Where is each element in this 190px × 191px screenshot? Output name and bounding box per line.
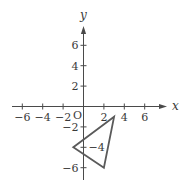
y-tick-label: −2: [62, 121, 78, 134]
x-axis-label: x: [172, 99, 179, 113]
x-tick-label: −6: [14, 111, 30, 124]
x-tick-label: −4: [35, 111, 51, 124]
x-tick-label: 6: [141, 111, 148, 124]
x-tick-label: 4: [121, 111, 128, 124]
y-tick-label: 4: [72, 60, 79, 73]
y-tick-label: 6: [72, 39, 79, 52]
y-tick-label: −4: [89, 141, 105, 154]
y-tick-label: −6: [62, 162, 78, 175]
y-tick-label: 2: [72, 80, 79, 93]
coordinate-plane: x y O −6−4−2246 642−2−4−6: [0, 0, 190, 191]
x-axis-arrow-icon: [159, 104, 167, 109]
y-axis-arrow-icon: [81, 26, 86, 34]
y-axis-label: y: [79, 8, 87, 22]
axes: [12, 26, 167, 180]
x-tick-label: 2: [100, 111, 107, 124]
